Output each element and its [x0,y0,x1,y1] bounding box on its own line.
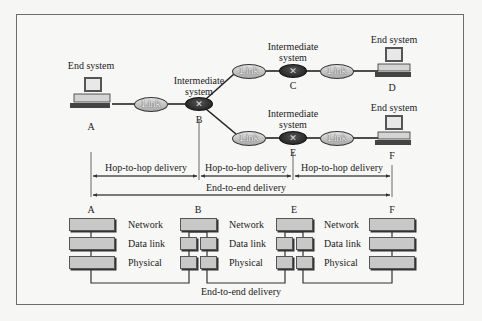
router-icon-b: ✕ [185,97,213,111]
node-f-letter: F [389,150,395,161]
node-b-caption-line2: system [185,86,213,97]
layer-a-physical [69,256,115,269]
hop-delivery-b-e: Hop-to-hop delivery [205,162,287,173]
link-e-f: Link [320,131,354,146]
link-a-b: Link [134,97,168,112]
router-cross-icon: ✕ [289,133,297,143]
layer-e-datalink-right [296,237,313,250]
node-b-letter: B [196,114,203,125]
stack-node-a: A [87,204,94,215]
link-b-c: Link [232,64,266,79]
node-a-caption: End system [68,60,114,71]
router-cross-icon: ✕ [289,66,297,76]
layer-f-datalink [369,237,415,250]
node-c-caption-line2: system [279,52,307,63]
layer-e-network [276,218,313,231]
layer-label-physical-2: Physical [229,257,263,268]
stack-node-f: F [389,204,395,215]
end-to-end-delivery-bottom: End-to-end delivery [201,286,281,297]
node-b-caption-line1: Intermediate [174,75,225,86]
layer-label-datalink-2: Data link [229,238,266,249]
layer-f-network [369,218,415,231]
stack-node-b: B [195,204,202,215]
node-c-caption-line1: Intermediate [268,41,319,52]
layer-b-datalink-left [180,237,197,250]
layer-b-datalink-right [200,237,217,250]
layer-label-physical-3: Physical [324,257,358,268]
layer-label-datalink-1: Data link [128,238,165,249]
computer-icon [375,115,411,145]
computer-icon [70,77,110,108]
layer-a-datalink [69,237,115,250]
node-e-caption-line2: system [279,119,307,130]
layer-e-physical-left [276,256,293,269]
node-f-caption: End system [371,102,417,113]
router-icon-c: ✕ [279,64,307,78]
layer-f-physical [369,256,415,269]
node-e-caption-line1: Intermediate [268,108,319,119]
end-to-end-delivery-top: End-to-end delivery [206,182,286,193]
layer-b-physical-right [200,256,217,269]
layer-label-datalink-3: Data link [324,238,361,249]
layer-label-network-1: Network [128,219,163,230]
router-cross-icon: ✕ [195,99,203,109]
node-c-letter: C [290,80,297,91]
link-c-d: Link [320,64,354,79]
computer-icon [375,47,411,77]
hop-delivery-a-b: Hop-to-hop delivery [105,162,187,173]
layer-label-network-3: Network [324,219,359,230]
layer-label-network-2: Network [229,219,264,230]
layer-e-physical-right [296,256,313,269]
layer-b-network [180,218,217,231]
node-a-letter: A [87,121,94,132]
node-d-letter: D [388,82,395,93]
hop-delivery-e-f: Hop-to-hop delivery [301,162,383,173]
connection-lines [0,0,482,321]
layer-e-datalink-left [276,237,293,250]
node-d-caption: End system [371,34,417,45]
layer-label-physical-1: Physical [128,257,162,268]
router-icon-e: ✕ [279,131,307,145]
layer-a-network [69,218,115,231]
node-e-letter: E [290,147,296,158]
link-b-e: Link [232,131,266,146]
layer-b-physical-left [180,256,197,269]
stack-node-e: E [291,204,297,215]
